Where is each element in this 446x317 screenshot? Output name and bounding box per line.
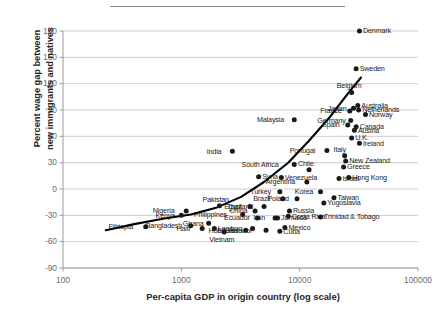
data-point[interactable] xyxy=(230,149,235,154)
data-point[interactable] xyxy=(295,196,300,201)
point-label: Denmark xyxy=(363,26,391,35)
data-point[interactable] xyxy=(264,228,269,233)
point-label: El Salvador xyxy=(217,226,252,235)
point-label: Haiti xyxy=(176,224,190,233)
data-point[interactable] xyxy=(184,208,189,213)
point-label: France xyxy=(320,106,341,115)
data-point[interactable] xyxy=(318,189,323,194)
point-label: Hong Kong xyxy=(352,173,387,182)
data-point[interactable] xyxy=(307,167,312,172)
point-label: Sweden xyxy=(360,64,385,73)
x-tick-label: 100 xyxy=(33,275,93,285)
point-label: Ecuador xyxy=(224,213,250,222)
data-point[interactable] xyxy=(324,148,329,153)
data-point[interactable] xyxy=(292,117,297,122)
data-point[interactable] xyxy=(341,165,346,170)
y-tick-label: -90 xyxy=(23,263,57,273)
point-label: Greece xyxy=(347,162,370,171)
point-label: Norway xyxy=(369,110,392,119)
data-point[interactable] xyxy=(348,118,353,123)
y-axis-title-line1: Percent wage gap between xyxy=(31,0,44,184)
data-point[interactable] xyxy=(262,204,267,209)
y-axis-title-line2: new immigrants and natives xyxy=(43,0,56,184)
point-label: Poland xyxy=(267,194,288,203)
point-label: Kenya xyxy=(156,211,176,220)
data-point[interactable] xyxy=(337,176,342,181)
point-label: Ethiopia xyxy=(108,222,133,231)
point-label: Yugoslavia xyxy=(327,198,360,207)
data-point[interactable] xyxy=(349,90,354,95)
data-point[interactable] xyxy=(256,174,261,179)
data-point[interactable] xyxy=(355,103,360,108)
data-point[interactable] xyxy=(179,213,184,218)
data-point[interactable] xyxy=(321,201,326,206)
point-label: Cuba xyxy=(283,227,300,236)
data-point[interactable] xyxy=(352,128,357,133)
point-label: South Africa xyxy=(242,160,279,169)
point-label: India xyxy=(207,147,222,156)
data-point[interactable] xyxy=(345,122,350,127)
point-label: Belgium xyxy=(337,81,362,90)
point-label: Trinidad & Tobago xyxy=(324,212,379,221)
point-label: Malaysia xyxy=(257,115,284,124)
data-point[interactable] xyxy=(273,215,278,220)
point-label: Vietnam xyxy=(209,235,234,244)
data-point[interactable] xyxy=(277,229,282,234)
data-point[interactable] xyxy=(354,66,359,71)
data-point[interactable] xyxy=(292,162,297,167)
chart-figure: 1801501209060300-30-60-90100100010000100… xyxy=(0,0,446,317)
data-point[interactable] xyxy=(217,203,222,208)
data-point[interactable] xyxy=(347,108,352,113)
data-point[interactable] xyxy=(349,136,354,141)
data-point[interactable] xyxy=(342,153,347,158)
y-tick-label: 0 xyxy=(23,184,57,194)
point-label: Spain xyxy=(322,120,340,129)
y-tick-label: -30 xyxy=(23,210,57,220)
point-label: Iran xyxy=(253,213,265,222)
x-tick-label: 100000 xyxy=(388,275,446,285)
point-label: Portugal xyxy=(290,146,316,155)
point-label: Jamaica xyxy=(281,213,307,222)
point-label: Korea xyxy=(295,187,313,196)
point-label: Argentina xyxy=(266,177,295,186)
y-axis-title: Percent wage gap between new immigrants … xyxy=(31,0,56,184)
x-tick-label: 1000 xyxy=(151,275,211,285)
point-label: Chile xyxy=(298,159,314,168)
y-tick-label: -60 xyxy=(23,236,57,246)
point-label: Italy xyxy=(334,145,346,154)
point-label: Ireland xyxy=(363,139,384,148)
data-point[interactable] xyxy=(357,29,362,34)
point-label: Philippines xyxy=(194,210,227,219)
x-tick-label: 10000 xyxy=(270,275,330,285)
x-axis-title: Per-capita GDP in origin country (log sc… xyxy=(63,291,423,302)
